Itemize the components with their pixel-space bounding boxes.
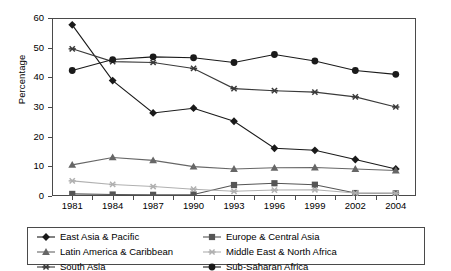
legend-item-east-asia-pacific[interactable]: East Asia & Pacific <box>36 232 202 242</box>
data-point-asterisk <box>42 264 49 269</box>
data-point-square <box>271 180 277 186</box>
legend-marker-triangle-icon <box>36 247 56 257</box>
data-point-asterisk <box>392 104 399 109</box>
data-point-square <box>150 192 156 198</box>
legend-label: Latin America & Caribbean <box>60 247 173 257</box>
data-point-circle <box>271 51 278 58</box>
legend-label: Sub-Saharan Africa <box>226 262 308 271</box>
series-europe-central-asia <box>69 180 399 198</box>
data-point-circle <box>311 58 318 65</box>
series-latin-america-caribbean <box>68 154 399 174</box>
data-point-square <box>110 191 116 197</box>
data-point-diamond <box>351 156 359 164</box>
data-point-star <box>271 187 278 192</box>
data-point-circle <box>231 59 238 66</box>
legend-marker-diamond-icon <box>36 232 56 242</box>
data-point-asterisk <box>271 88 278 93</box>
data-point-star <box>311 187 318 192</box>
data-point-circle <box>392 71 399 78</box>
data-point-diamond <box>271 144 279 152</box>
data-point-asterisk <box>311 90 318 95</box>
data-point-asterisk <box>190 66 197 71</box>
data-point-circle <box>150 53 157 60</box>
series-line <box>72 49 396 107</box>
data-point-star <box>208 249 215 254</box>
legend-label: Middle East & North Africa <box>226 247 337 257</box>
data-point-triangle <box>109 154 117 161</box>
legend-marker-star-icon <box>202 247 222 257</box>
legend-item-middle-east-north-africa[interactable]: Middle East & North Africa <box>202 247 418 257</box>
legend-item-south-asia[interactable]: South Asia <box>36 262 202 271</box>
legend-marker-asterisk-icon <box>36 262 56 271</box>
data-point-star <box>150 184 157 189</box>
series-east-asia-pacific <box>68 21 399 173</box>
data-point-diamond <box>42 233 50 241</box>
data-point-asterisk <box>150 60 157 65</box>
legend-label: Europe & Central Asia <box>226 232 319 242</box>
series-sub-saharan-africa <box>69 51 399 78</box>
data-point-diamond <box>230 117 238 125</box>
data-point-asterisk <box>69 46 76 51</box>
data-point-star <box>69 178 76 183</box>
data-point-square <box>69 191 75 197</box>
data-point-circle <box>109 56 116 63</box>
data-point-square <box>190 191 196 197</box>
data-point-diamond <box>190 104 198 112</box>
data-point-circle <box>69 67 76 74</box>
legend: East Asia & PacificEurope & Central Asia… <box>27 227 425 265</box>
line-chart: Percentage 0102030405060 198119841987199… <box>0 0 451 271</box>
series-line <box>72 25 396 169</box>
data-point-asterisk <box>230 86 237 91</box>
data-point-diamond <box>311 146 319 154</box>
legend-label: East Asia & Pacific <box>60 232 139 242</box>
legend-marker-square-icon <box>202 232 222 242</box>
data-point-square <box>231 182 237 188</box>
data-point-circle <box>190 54 197 61</box>
legend-item-latin-america-caribbean[interactable]: Latin America & Caribbean <box>36 247 202 257</box>
data-point-star <box>109 182 116 187</box>
data-point-asterisk <box>352 94 359 99</box>
data-point-star <box>230 189 237 194</box>
data-point-star <box>190 187 197 192</box>
data-point-square <box>209 234 215 240</box>
data-point-circle <box>352 67 359 74</box>
data-point-diamond <box>68 21 76 29</box>
data-point-circle <box>209 264 216 271</box>
series-south-asia <box>69 46 400 109</box>
legend-item-europe-central-asia[interactable]: Europe & Central Asia <box>202 232 418 242</box>
legend-item-sub-saharan-africa[interactable]: Sub-Saharan Africa <box>202 262 418 271</box>
legend-marker-circle-icon <box>202 262 222 271</box>
legend-label: South Asia <box>60 262 105 271</box>
